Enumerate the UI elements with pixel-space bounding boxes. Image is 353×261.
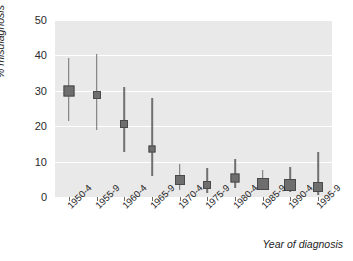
data-point-marker — [313, 182, 323, 192]
data-point-marker — [203, 181, 211, 189]
data-point-marker — [120, 120, 128, 128]
data-point-marker — [148, 146, 155, 153]
y-tick-label: 10 — [35, 156, 47, 168]
data-point-marker — [93, 91, 101, 99]
chart-figure: % misdiagnosis 01020304050 1950-41955-91… — [0, 0, 353, 261]
data-point-marker — [175, 175, 185, 185]
data-point-marker — [63, 85, 74, 96]
x-axis-title: Year of diagnosis — [262, 238, 343, 250]
y-tick-label: 0 — [41, 191, 47, 203]
error-bar — [151, 98, 153, 177]
y-axis-ticks: 01020304050 — [0, 0, 55, 261]
y-tick-label: 40 — [35, 49, 47, 61]
y-tick-label: 50 — [35, 14, 47, 26]
plot-area — [55, 20, 332, 197]
data-series — [55, 20, 332, 197]
data-point-marker — [231, 173, 240, 182]
y-tick-label: 30 — [35, 85, 47, 97]
y-tick-label: 20 — [35, 120, 47, 132]
